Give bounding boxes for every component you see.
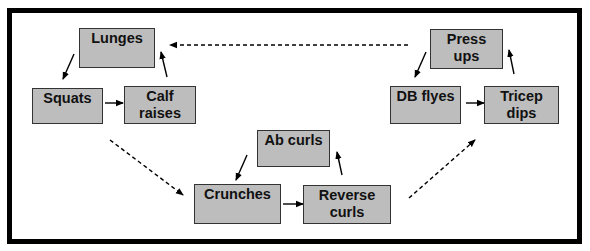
- node-squats: Squats: [32, 88, 103, 124]
- dashed-arrow-reverse-curls-to-tricep-dips: [409, 140, 475, 198]
- arrow-lunges-to-squats: [63, 54, 74, 79]
- arrow-press-ups-to-db-flyes: [415, 52, 426, 77]
- dashed-arrow-calf-raises-to-crunches: [110, 140, 183, 195]
- node-label: Lunges: [80, 30, 154, 47]
- node-label-line2: dips: [485, 105, 558, 122]
- arrow-tricep-dips-to-press-ups: [509, 50, 514, 74]
- arrow-calf-raises-to-lunges: [161, 52, 167, 77]
- node-tricep-dips: Tricep dips: [484, 86, 559, 124]
- node-ab-curls: Ab curls: [257, 130, 330, 167]
- node-label: Squats: [33, 90, 102, 107]
- node-label-line2: ups: [431, 48, 502, 65]
- arrow-reverse-curls-to-ab-curls: [337, 152, 342, 175]
- node-crunches: Crunches: [194, 184, 281, 224]
- node-calf-raises: Calf raises: [124, 86, 196, 124]
- node-label: Ab curls: [258, 132, 329, 149]
- node-label-line1: Press: [431, 31, 502, 48]
- node-lunges: Lunges: [79, 28, 155, 68]
- arrow-ab-curls-to-crunches: [236, 155, 247, 180]
- node-label-line1: Reverse: [304, 187, 390, 204]
- node-label: DB flyes: [391, 88, 460, 105]
- node-label-line1: Calf: [125, 88, 195, 105]
- node-label-line1: Tricep: [485, 88, 558, 105]
- node-press-ups: Press ups: [430, 29, 503, 69]
- node-reverse-curls: Reverse curls: [303, 185, 391, 224]
- node-label-line2: raises: [125, 105, 195, 122]
- node-db-flyes: DB flyes: [390, 86, 461, 124]
- node-label: Crunches: [195, 186, 280, 203]
- node-label-line2: curls: [304, 204, 390, 221]
